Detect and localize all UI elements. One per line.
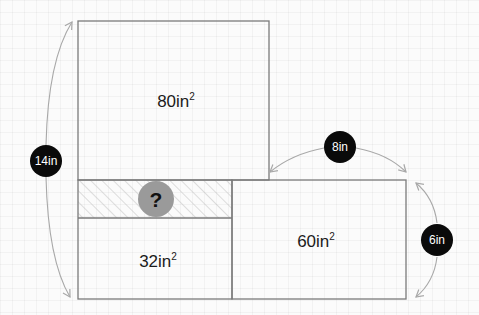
svg-text:14in: 14in	[35, 154, 58, 168]
badge-8in: 8in	[324, 131, 356, 163]
height-arrow-up	[46, 22, 72, 145]
svg-text:6in: 6in	[429, 233, 445, 247]
question-mark: ?	[150, 188, 163, 211]
width-arrow-right	[356, 148, 406, 172]
bottom-left-area: 32in2	[139, 251, 177, 271]
side-arrow-up	[416, 183, 437, 223]
side-arrow-down	[416, 257, 437, 297]
badge-14in: 14in	[30, 145, 62, 177]
area-diagram: 80in2 32in2 60in2 ? 14in 8in 6in	[0, 0, 479, 315]
unknown-area-marker: ?	[138, 181, 174, 217]
right-rect-area: 60in2	[297, 231, 335, 251]
shape-outlines	[78, 21, 406, 299]
badge-6in: 6in	[421, 224, 453, 256]
svg-text:8in: 8in	[332, 140, 348, 154]
height-arrow-down	[46, 177, 70, 297]
top-rect-area: 80in2	[157, 91, 195, 111]
width-arrow-left	[270, 148, 324, 172]
